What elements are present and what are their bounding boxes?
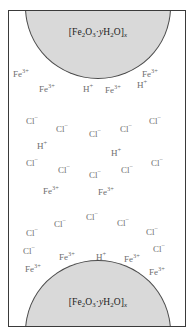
ion-label-cl: Cl− bbox=[26, 229, 38, 238]
ion-species: Fe bbox=[105, 85, 114, 95]
ion-charge: 3+ bbox=[107, 185, 114, 192]
ion-charge: + bbox=[144, 78, 148, 85]
ion-charge: − bbox=[65, 122, 69, 129]
ion-species: Cl bbox=[117, 218, 126, 228]
ion-charge: 3+ bbox=[52, 184, 59, 191]
ion-species: Fe bbox=[13, 69, 22, 79]
ion-label-cl: Cl− bbox=[117, 219, 129, 228]
ion-species: Fe bbox=[98, 187, 107, 197]
ion-label-h: H+ bbox=[137, 81, 147, 90]
ion-species: Cl bbox=[146, 227, 155, 237]
ion-label-cl: Cl− bbox=[121, 166, 133, 175]
ion-species: Cl bbox=[26, 158, 35, 168]
ion-species: Cl bbox=[86, 212, 95, 222]
ion-charge: − bbox=[67, 163, 71, 170]
ion-charge: − bbox=[126, 216, 130, 223]
ion-species: Cl bbox=[58, 165, 67, 175]
ion-label-cl: Cl− bbox=[26, 117, 38, 126]
ion-species: Fe bbox=[149, 267, 158, 277]
ion-charge: − bbox=[32, 244, 36, 251]
ion-label-fe: Fe3+ bbox=[43, 187, 59, 196]
ion-species: Fe bbox=[43, 186, 52, 196]
figure-container: [Fe2O3·yH2O]x [Fe2O3·yH2O]x Fe3+Fe3+Fe3+… bbox=[0, 0, 196, 336]
ion-charge: 3+ bbox=[48, 82, 55, 89]
ion-label-fe: Fe3+ bbox=[105, 86, 121, 95]
ion-charge: + bbox=[90, 82, 94, 89]
top-particle-formula: [Fe2O3·yH2O]x bbox=[26, 27, 170, 37]
ion-species: Fe bbox=[59, 252, 68, 262]
ion-label-h: H+ bbox=[96, 253, 106, 262]
ion-label-cl: Cl− bbox=[23, 247, 35, 256]
ion-label-fe: Fe3+ bbox=[149, 268, 165, 277]
ion-label-cl: Cl− bbox=[120, 125, 132, 134]
ion-charge: 3+ bbox=[22, 67, 29, 74]
ion-label-cl: Cl− bbox=[54, 220, 66, 229]
ion-species: Cl bbox=[149, 116, 158, 126]
ion-charge: 3+ bbox=[68, 250, 75, 257]
ion-species: Fe bbox=[39, 84, 48, 94]
ion-charge: 3+ bbox=[133, 252, 140, 259]
ion-charge: − bbox=[35, 226, 39, 233]
ion-charge: − bbox=[155, 225, 159, 232]
ion-charge: 3+ bbox=[114, 83, 121, 90]
ion-charge: 3+ bbox=[151, 67, 158, 74]
ion-species: Cl bbox=[121, 165, 130, 175]
ion-species: Cl bbox=[153, 244, 162, 254]
ion-label-cl: Cl− bbox=[26, 159, 38, 168]
ion-label-fe: Fe3+ bbox=[25, 265, 41, 274]
ion-label-fe: Fe3+ bbox=[39, 85, 55, 94]
ion-label-fe: Fe3+ bbox=[98, 188, 114, 197]
ion-charge: − bbox=[160, 156, 164, 163]
ion-charge: + bbox=[103, 250, 107, 257]
ion-species: Cl bbox=[89, 129, 98, 139]
ion-species: Cl bbox=[26, 116, 35, 126]
ion-label-cl: Cl− bbox=[89, 171, 101, 180]
ion-label-h: H+ bbox=[37, 142, 47, 151]
ion-label-h: H+ bbox=[111, 149, 121, 158]
figure-frame: [Fe2O3·yH2O]x [Fe2O3·yH2O]x Fe3+Fe3+Fe3+… bbox=[8, 10, 186, 327]
ion-label-fe: Fe3+ bbox=[13, 70, 29, 79]
ion-charge: − bbox=[95, 210, 99, 217]
ion-charge: + bbox=[118, 146, 122, 153]
ion-label-fe: Fe3+ bbox=[124, 255, 140, 264]
ion-species: Fe bbox=[124, 254, 133, 264]
ion-charge: − bbox=[129, 122, 133, 129]
ion-species: Cl bbox=[26, 228, 35, 238]
ion-charge: − bbox=[98, 127, 102, 134]
ion-label-h: H+ bbox=[83, 85, 93, 94]
ion-species: Fe bbox=[25, 264, 34, 274]
ion-charge: − bbox=[35, 114, 39, 121]
ion-charge: − bbox=[162, 242, 166, 249]
ion-label-fe: Fe3+ bbox=[59, 253, 75, 262]
ion-charge: − bbox=[35, 156, 39, 163]
ion-label-cl: Cl− bbox=[146, 228, 158, 237]
ion-label-cl: Cl− bbox=[149, 117, 161, 126]
ion-charge: − bbox=[130, 163, 134, 170]
ion-label-cl: Cl− bbox=[86, 213, 98, 222]
ion-species: Cl bbox=[151, 158, 160, 168]
ion-species: Cl bbox=[54, 219, 63, 229]
ion-species: Cl bbox=[120, 124, 129, 134]
ion-species: Cl bbox=[56, 124, 65, 134]
ion-label-cl: Cl− bbox=[153, 245, 165, 254]
ion-label-cl: Cl− bbox=[89, 130, 101, 139]
ion-label-cl: Cl− bbox=[58, 166, 70, 175]
ion-charge: + bbox=[44, 139, 48, 146]
ion-charge: 3+ bbox=[158, 265, 165, 272]
ion-charge: − bbox=[158, 114, 162, 121]
ion-species: Cl bbox=[23, 246, 32, 256]
ion-charge: − bbox=[63, 217, 67, 224]
ion-charge: 3+ bbox=[34, 262, 41, 269]
ion-label-cl: Cl− bbox=[56, 125, 68, 134]
ion-species: Cl bbox=[89, 170, 98, 180]
ion-label-cl: Cl− bbox=[151, 159, 163, 168]
bottom-particle-formula: [Fe2O3·yH2O]x bbox=[26, 297, 170, 307]
ion-charge: − bbox=[98, 168, 102, 175]
